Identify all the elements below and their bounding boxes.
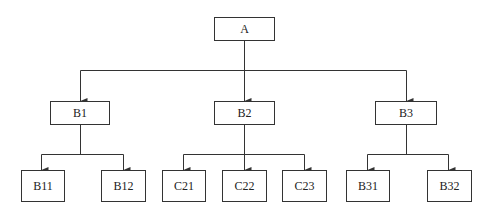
tree-diagram: A B1 B2 B3 B11 B12 C21 C22 C23 B31 B32: [0, 0, 488, 215]
node-label: B32: [439, 179, 459, 194]
node-label: C23: [294, 179, 314, 194]
node-c21: C21: [162, 170, 206, 202]
node-label: C21: [174, 179, 194, 194]
node-b31: B31: [346, 170, 390, 202]
node-a: A: [214, 17, 275, 41]
node-label: B3: [399, 106, 413, 121]
node-b2: B2: [214, 101, 275, 125]
node-b12: B12: [101, 170, 146, 202]
node-label: B11: [33, 179, 53, 194]
node-b11: B11: [21, 170, 65, 202]
node-label: B2: [237, 106, 251, 121]
node-b3: B3: [375, 101, 437, 125]
node-b32: B32: [427, 170, 472, 202]
node-label: B12: [113, 179, 133, 194]
node-label: C22: [234, 179, 254, 194]
node-c22: C22: [222, 170, 267, 202]
node-b1: B1: [50, 101, 110, 125]
node-label: B1: [73, 106, 87, 121]
node-label: B31: [358, 179, 378, 194]
node-c23: C23: [282, 170, 327, 202]
node-label: A: [240, 22, 249, 37]
